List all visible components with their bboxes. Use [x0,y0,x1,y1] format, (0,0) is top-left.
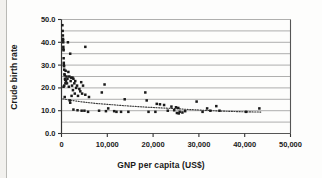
data-point [74,80,77,83]
data-point [144,91,147,94]
data-point [63,62,66,65]
data-point [170,105,173,108]
y-tick-label: 20.0 [22,83,56,92]
data-point [68,99,71,102]
data-point [173,109,176,112]
data-point [80,109,83,112]
data-point [123,98,126,101]
data-point [62,41,65,44]
data-point [69,101,72,104]
data-point [63,96,66,99]
data-point [65,80,68,83]
data-point [115,111,118,114]
x-axis-title: GNP per capita (US$) [0,160,322,170]
data-point [72,78,75,81]
data-point [145,99,148,102]
data-point [82,84,85,87]
data-point [62,49,64,52]
data-point [66,78,69,81]
trend-line [63,99,261,112]
y-tick-label: 0.0 [22,129,56,138]
data-point [127,111,129,114]
data-point [65,75,68,78]
data-point [107,107,110,110]
data-point [218,109,221,112]
data-point [62,39,65,42]
data-point [178,112,181,115]
data-point [154,111,157,114]
data-point [156,103,159,106]
data-point [159,103,162,106]
data-point [67,41,70,44]
data-point [64,70,67,73]
data-point [62,34,64,37]
y-axis-title: Crude birth rate [9,22,19,132]
data-point [206,107,209,110]
data-point [120,111,123,114]
data-point [61,30,64,33]
x-tick-label: 10,000 [85,140,129,149]
data-point [167,109,170,112]
data-point [62,46,65,49]
y-tick-label: 10.0 [22,106,56,115]
data-point [80,81,83,84]
x-tick-label: 0 [40,140,84,149]
data-point [181,111,184,114]
data-point [84,93,87,96]
data-point [76,84,79,87]
x-tick-label: 30,000 [177,140,221,149]
data-point [63,65,65,68]
y-tick-label: 40.0 [22,38,56,47]
data-point [177,107,180,110]
data-point [83,109,86,112]
data-point [78,88,81,91]
data-point [201,111,204,114]
y-tick-label: 30.0 [22,61,56,70]
data-point [68,86,71,89]
data-point [75,87,78,90]
data-point [87,111,90,114]
data-point [101,91,104,94]
data-point [113,110,116,113]
data-point [98,109,101,112]
x-tick-label: 20,000 [131,140,175,149]
chart-figure: Crude birth rate GNP per capita (US$) 0.… [0,0,322,178]
data-point [105,110,108,113]
data-point [245,111,248,114]
data-point [215,105,218,108]
data-point [67,71,70,74]
x-tick-label: 40,000 [223,140,267,149]
data-point [184,110,187,113]
y-tick-label: 50.0 [22,15,56,24]
data-point [74,92,77,95]
data-point [66,82,69,85]
data-point [76,109,79,112]
data-point [61,24,64,27]
data-point [195,100,198,103]
data-point [73,82,76,85]
data-point [258,107,261,110]
data-point [209,109,212,112]
data-point [72,108,75,111]
data-point [69,80,72,83]
data-point [84,46,87,49]
data-point [163,104,166,107]
data-point [175,106,178,109]
data-point [103,83,106,86]
data-point [62,86,64,89]
data-point [72,89,75,92]
data-point [88,96,91,99]
data-point [147,111,150,114]
data-point [79,90,82,93]
data-point [69,52,72,55]
data-point [71,84,74,87]
x-tick-label: 50,000 [269,140,313,149]
data-point [77,95,80,98]
data-point [62,57,65,60]
data-point [70,95,73,98]
data-point [81,92,84,95]
